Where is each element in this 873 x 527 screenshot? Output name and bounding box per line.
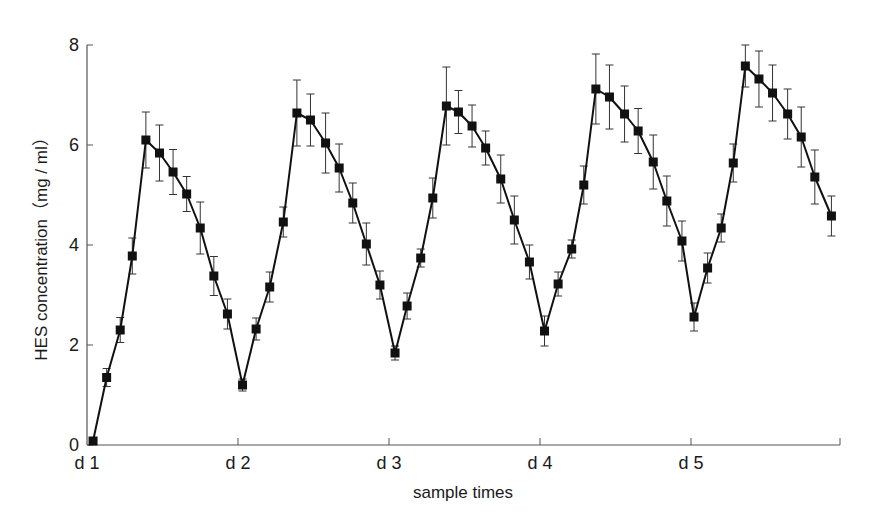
square-marker xyxy=(797,133,806,142)
square-marker xyxy=(348,199,357,208)
square-marker xyxy=(703,264,712,273)
square-marker xyxy=(292,109,301,118)
y-tick-label: 6 xyxy=(69,135,79,155)
square-marker xyxy=(510,216,519,225)
square-marker xyxy=(223,310,232,319)
square-marker xyxy=(677,237,686,246)
square-marker xyxy=(591,85,600,94)
square-marker xyxy=(442,102,451,111)
square-marker xyxy=(209,272,218,281)
square-marker xyxy=(128,252,137,261)
square-marker xyxy=(238,381,247,390)
x-axis-label: sample times xyxy=(413,483,513,502)
hes-concentration-chart: 02468 d 1d 2d 3d 4d 5 sample times HES c… xyxy=(0,0,873,527)
y-axis-ticks: 02468 xyxy=(69,35,93,455)
y-tick-label: 4 xyxy=(69,235,79,255)
square-marker xyxy=(141,136,150,145)
square-marker xyxy=(169,168,178,177)
square-marker xyxy=(634,127,643,136)
x-tick-label: d 3 xyxy=(376,453,401,473)
square-marker xyxy=(335,164,344,173)
x-tick-label: d 2 xyxy=(225,453,250,473)
square-marker xyxy=(252,325,261,334)
square-marker xyxy=(391,349,400,358)
square-marker xyxy=(265,283,274,292)
square-marker xyxy=(428,194,437,203)
square-marker xyxy=(605,93,614,102)
x-tick-label: d 4 xyxy=(527,453,552,473)
square-marker xyxy=(525,258,534,267)
square-marker xyxy=(116,326,125,335)
error-bars xyxy=(89,45,835,442)
y-tick-label: 2 xyxy=(69,335,79,355)
chart-canvas: 02468 d 1d 2d 3d 4d 5 sample times HES c… xyxy=(0,0,873,527)
square-marker xyxy=(554,280,563,289)
square-marker xyxy=(182,190,191,199)
y-tick-label: 0 xyxy=(69,435,79,455)
square-marker xyxy=(375,281,384,290)
square-marker xyxy=(649,158,658,167)
y-tick-label: 8 xyxy=(69,35,79,55)
square-marker xyxy=(89,437,98,446)
x-tick-label: d 5 xyxy=(678,453,703,473)
x-tick-label: d 1 xyxy=(74,453,99,473)
square-marker xyxy=(567,245,576,254)
square-marker xyxy=(579,181,588,190)
square-marker xyxy=(741,62,750,71)
x-axis-ticks: d 1d 2d 3d 4d 5 xyxy=(74,438,703,473)
square-marker xyxy=(468,122,477,131)
square-marker xyxy=(416,254,425,263)
square-marker xyxy=(196,224,205,233)
square-marker xyxy=(768,89,777,98)
square-marker xyxy=(827,212,836,221)
square-marker xyxy=(496,175,505,184)
square-marker xyxy=(403,302,412,311)
square-marker xyxy=(279,218,288,227)
y-axis-label: HES concentration（mg / ml） xyxy=(32,129,51,360)
square-marker xyxy=(481,144,490,153)
square-marker xyxy=(321,139,330,148)
square-marker xyxy=(155,149,164,158)
square-marker xyxy=(454,108,463,117)
square-marker xyxy=(690,313,699,322)
square-marker xyxy=(306,116,315,125)
square-marker xyxy=(729,159,738,168)
square-marker xyxy=(662,197,671,206)
square-marker xyxy=(620,110,629,119)
square-marker xyxy=(810,173,819,182)
square-marker xyxy=(754,75,763,84)
square-marker xyxy=(540,327,549,336)
square-marker xyxy=(783,110,792,119)
square-marker xyxy=(102,373,111,382)
square-marker xyxy=(362,240,371,249)
square-marker xyxy=(717,224,726,233)
